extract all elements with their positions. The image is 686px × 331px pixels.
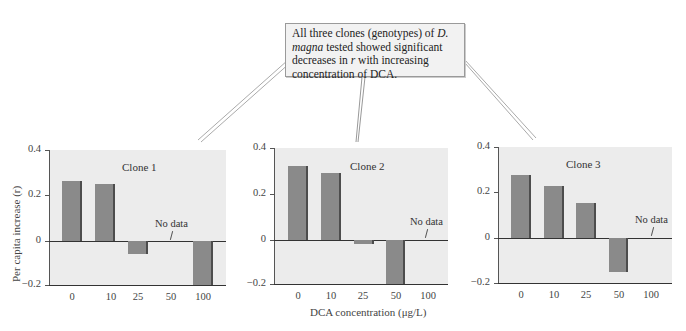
bar-25 [354, 240, 372, 244]
zero-line [498, 238, 672, 239]
y-tick [45, 195, 49, 196]
y-tick-label: 0 [11, 234, 41, 245]
x-tick-label: 0 [57, 291, 87, 302]
bar-10 [544, 186, 562, 238]
no-data-label: No data [410, 216, 443, 227]
chart-title: Clone 2 [350, 160, 385, 172]
x-axis [274, 284, 448, 285]
x-tick-label: 100 [636, 289, 666, 300]
x-tick-label: 25 [348, 290, 378, 301]
x-tick-label: 10 [539, 289, 569, 300]
x-tick-label: 50 [381, 290, 411, 301]
x-axis-title: DCA concentration (μg/L) [310, 306, 426, 318]
bar-10 [95, 184, 113, 241]
x-tick-label: 100 [413, 290, 443, 301]
bar-50 [609, 238, 626, 272]
y-axis [274, 148, 275, 285]
bar-0 [511, 175, 529, 238]
callout-text: All three clones (genotypes) of [292, 27, 437, 39]
y-tick-label: 0.2 [460, 185, 490, 196]
y-tick-label: 0.2 [11, 188, 41, 199]
x-tick-label: 25 [571, 289, 601, 300]
callout-annotation: All three clones (genotypes) of D. magna… [285, 23, 465, 77]
y-tick-label: 0 [460, 231, 490, 242]
bar-25 [576, 203, 594, 238]
x-tick-label: 0 [283, 290, 313, 301]
x-axis [49, 285, 226, 286]
y-tick-label: 0.4 [460, 140, 490, 151]
y-tick-label: 0.4 [11, 143, 41, 154]
chart-title: Clone 1 [122, 161, 157, 173]
y-tick-label: 0.2 [236, 187, 266, 198]
callout-text: tested showed significant [323, 41, 442, 53]
y-axis [498, 147, 499, 284]
x-tick-label: 50 [604, 289, 634, 300]
bar-0 [62, 181, 80, 241]
x-tick-label: 50 [156, 291, 186, 302]
chart-title: Clone 3 [566, 158, 601, 170]
callout-species-italic: D. [437, 27, 448, 39]
x-tick-label: 10 [316, 290, 346, 301]
y-axis [49, 150, 50, 286]
x-tick-label: 0 [506, 289, 536, 300]
y-tick-label: −0.2 [236, 277, 266, 288]
no-data-label: No data [635, 214, 668, 225]
no-data-label: No data [155, 218, 188, 229]
bar-10 [321, 173, 339, 240]
bar-0 [288, 166, 306, 240]
x-axis [498, 283, 672, 284]
y-tick [45, 150, 49, 151]
bar-50 [386, 240, 403, 284]
callout-text: concentration of DCA. [292, 68, 397, 80]
y-tick-label: −0.2 [460, 276, 490, 287]
callout-species-italic: magna [292, 41, 323, 53]
y-tick-label: 0 [236, 233, 266, 244]
x-tick-label: 10 [96, 291, 126, 302]
y-tick [494, 192, 498, 193]
callout-text: with increasing [355, 54, 428, 66]
x-tick-label: 25 [123, 291, 153, 302]
y-tick [494, 147, 498, 148]
y-tick-label: −0.2 [11, 278, 41, 289]
y-tick [270, 194, 274, 195]
bar-100 [193, 241, 211, 285]
y-tick-label: 0.4 [236, 141, 266, 152]
bar-25 [128, 241, 146, 254]
y-tick [270, 148, 274, 149]
callout-text: decreases in [292, 54, 351, 66]
x-tick-label: 100 [188, 291, 218, 302]
